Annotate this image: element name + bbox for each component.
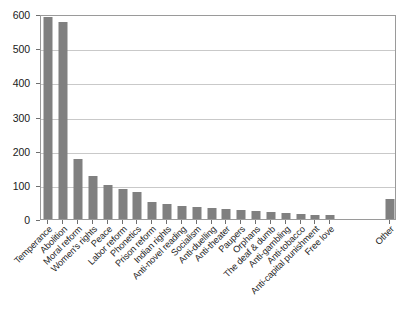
bar-slot	[249, 16, 264, 219]
bar-slot	[86, 16, 101, 219]
bar-slot	[308, 16, 323, 219]
bar	[59, 22, 68, 219]
bar-slot	[100, 16, 115, 219]
bar	[118, 189, 127, 219]
bar-slot	[115, 16, 130, 219]
bar	[148, 202, 157, 219]
bar	[44, 17, 53, 219]
y-tick-label: 200	[13, 146, 30, 158]
bar-slot	[204, 16, 219, 219]
bar	[207, 208, 216, 219]
bar	[192, 207, 201, 219]
bar	[385, 199, 394, 220]
y-tick-mark	[36, 118, 40, 119]
bar-slot	[234, 16, 249, 219]
bar-slot	[293, 16, 308, 219]
bar	[133, 192, 142, 219]
y-tick-label: 600	[13, 9, 30, 21]
bar-slot	[71, 16, 86, 219]
bar	[88, 176, 97, 219]
y-tick-label: 500	[13, 43, 30, 55]
bar-slot	[56, 16, 71, 219]
bar	[222, 209, 231, 219]
y-tick-mark	[36, 15, 40, 16]
y-tick-label: 100	[13, 180, 30, 192]
y-tick-label: 300	[13, 112, 30, 124]
bar-chart-figure: 0100200300400500600 TemperanceAbolitionM…	[0, 0, 416, 329]
y-tick-mark	[36, 152, 40, 153]
y-tick-mark	[36, 220, 40, 221]
bar-slot	[323, 16, 338, 219]
y-tick-label: 400	[13, 77, 30, 89]
bar	[311, 215, 320, 219]
bar-slot	[219, 16, 234, 219]
bar-slot	[160, 16, 175, 219]
bar	[281, 213, 290, 219]
y-tick-mark	[36, 49, 40, 50]
bar-slot	[189, 16, 204, 219]
bar	[237, 210, 246, 219]
bar-slot	[382, 16, 396, 219]
bar-slot	[175, 16, 190, 219]
bar	[163, 204, 172, 219]
bar-slot	[264, 16, 279, 219]
x-axis: TemperanceAbolitionMoral reformWomen's r…	[40, 224, 396, 329]
bar-slot	[278, 16, 293, 219]
bar-slot	[130, 16, 145, 219]
bar	[74, 159, 83, 219]
bar	[296, 214, 305, 219]
y-tick-label: 0	[24, 214, 30, 226]
bar-slot	[145, 16, 160, 219]
bar	[177, 206, 186, 219]
bar	[266, 212, 275, 219]
plot-area	[40, 15, 396, 220]
y-tick-mark	[36, 186, 40, 187]
bar	[326, 215, 335, 219]
y-tick-mark	[36, 83, 40, 84]
bar	[252, 211, 261, 219]
bar	[103, 185, 112, 219]
bar-slot	[41, 16, 56, 219]
